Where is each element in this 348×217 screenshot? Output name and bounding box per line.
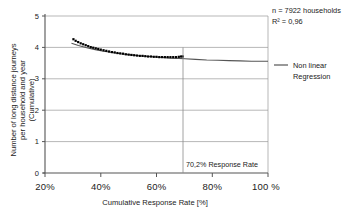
data-point bbox=[92, 47, 94, 49]
x-tick-label-100: 100 % bbox=[252, 181, 280, 192]
data-point bbox=[175, 56, 177, 58]
response-rate-chart: 5 4 3 2 1 0 20% 40% 60% 80% 100 % Cumula… bbox=[0, 0, 348, 217]
y-tick-label-1: 1 bbox=[35, 137, 39, 146]
y-axis-title-line3: (Cumulative) bbox=[27, 78, 36, 122]
y-axis-title-line1: Number of long distance journeys bbox=[9, 43, 18, 156]
chart-figure: 5 4 3 2 1 0 20% 40% 60% 80% 100 % Cumula… bbox=[0, 0, 348, 217]
x-tick-label-20: 20% bbox=[35, 181, 55, 192]
legend-label-line2: Regression bbox=[293, 72, 330, 81]
data-point bbox=[105, 50, 107, 52]
data-point bbox=[122, 53, 124, 55]
data-point bbox=[128, 54, 130, 56]
x-tick-label-60: 60% bbox=[147, 181, 167, 192]
response-rate-marker-label: 70,2% Response Rate bbox=[186, 160, 258, 169]
y-tick-label-5: 5 bbox=[35, 12, 39, 21]
data-point bbox=[116, 52, 118, 54]
y-tick-label-0: 0 bbox=[35, 169, 39, 178]
plot-area-background bbox=[45, 16, 268, 173]
data-point bbox=[80, 42, 82, 44]
y-tick-label-4: 4 bbox=[35, 43, 39, 52]
x-axis-title: Cumulative Response Rate [%] bbox=[102, 198, 208, 207]
data-point bbox=[90, 46, 92, 48]
data-point bbox=[87, 45, 89, 47]
data-point bbox=[164, 56, 166, 58]
y-axis-title: Number of long distance journeys per hou… bbox=[9, 43, 36, 156]
data-point bbox=[108, 50, 110, 52]
data-point bbox=[97, 48, 99, 50]
data-point bbox=[72, 38, 74, 40]
data-point bbox=[155, 56, 157, 58]
data-point bbox=[85, 44, 87, 46]
data-point bbox=[95, 47, 97, 49]
data-point bbox=[75, 40, 77, 42]
legend-label-line1: Non linear bbox=[293, 61, 327, 70]
data-point bbox=[167, 56, 169, 58]
x-tick-label-80: 80% bbox=[202, 181, 222, 192]
x-axis-ticks bbox=[45, 173, 268, 177]
data-point bbox=[169, 56, 171, 58]
data-point bbox=[172, 56, 174, 58]
data-point bbox=[130, 54, 132, 56]
data-point bbox=[111, 51, 113, 53]
r-squared-annotation: R² = 0,96 bbox=[272, 17, 303, 26]
data-point bbox=[141, 55, 143, 57]
y-axis-title-line2: per household and year bbox=[18, 60, 27, 140]
data-point bbox=[161, 56, 163, 58]
data-point bbox=[136, 54, 138, 56]
data-point bbox=[77, 41, 79, 43]
data-point bbox=[119, 52, 121, 54]
sample-size-annotation: n = 7922 households bbox=[272, 6, 341, 15]
data-point bbox=[114, 51, 116, 53]
data-point bbox=[100, 49, 102, 51]
data-point bbox=[102, 49, 104, 51]
data-point bbox=[153, 56, 155, 58]
data-point bbox=[125, 53, 127, 55]
x-tick-label-40: 40% bbox=[91, 181, 111, 192]
data-point bbox=[139, 55, 141, 57]
data-point bbox=[178, 56, 180, 58]
data-point bbox=[150, 55, 152, 57]
chart-legend: Non linear Regression bbox=[274, 61, 330, 81]
data-point bbox=[147, 55, 149, 57]
data-point bbox=[133, 54, 135, 56]
data-point bbox=[158, 56, 160, 58]
data-point bbox=[82, 43, 84, 45]
data-point bbox=[144, 55, 146, 57]
